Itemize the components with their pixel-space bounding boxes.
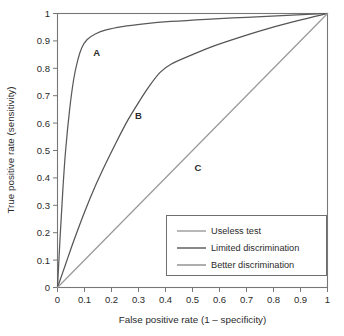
y-tick-label: 0.7 [37, 90, 50, 101]
curve-label-b: B [135, 110, 142, 121]
chart-legend: Useless testLimited discriminationBetter… [167, 216, 327, 276]
x-tick-label: 0.3 [132, 294, 145, 305]
y-axis-title: True positive rate (sensitivity) [5, 86, 16, 213]
y-tick-label: 1 [45, 8, 50, 19]
curve-label-c: C [194, 162, 201, 173]
legend-label: Better discrimination [211, 260, 294, 270]
legend-label: Useless test [211, 226, 261, 236]
x-tick-label: 0.5 [186, 294, 199, 305]
x-axis-title: False positive rate (1 – specificity) [119, 314, 267, 325]
chart-background [0, 0, 344, 336]
y-tick-label: 0.6 [37, 118, 50, 129]
x-tick-label: 0.6 [213, 294, 226, 305]
y-tick-label: 0.4 [37, 172, 50, 183]
roc-chart-canvas: 00.10.20.30.40.50.60.70.80.91 00.10.20.3… [0, 0, 344, 336]
y-tick-label: 0.3 [37, 200, 50, 211]
curve-label-a: A [93, 47, 100, 58]
x-tick-label: 0.9 [294, 294, 307, 305]
x-tick-label: 0.2 [105, 294, 118, 305]
roc-chart-figure: 00.10.20.30.40.50.60.70.80.91 00.10.20.3… [0, 0, 344, 336]
x-tick-label: 0.7 [240, 294, 253, 305]
y-tick-label: 0.2 [37, 227, 50, 238]
y-tick-label: 0 [45, 282, 50, 293]
x-tick-label: 0.8 [267, 294, 280, 305]
y-tick-label: 0.9 [37, 35, 50, 46]
x-tick-label: 0.1 [78, 294, 91, 305]
x-tick-label: 0 [55, 294, 60, 305]
legend-label: Limited discrimination [211, 243, 299, 253]
y-tick-label: 0.8 [37, 63, 50, 74]
x-tick-label: 1 [325, 294, 330, 305]
x-tick-label: 0.4 [159, 294, 172, 305]
y-tick-label: 0.5 [37, 145, 50, 156]
y-tick-label: 0.1 [37, 255, 50, 266]
